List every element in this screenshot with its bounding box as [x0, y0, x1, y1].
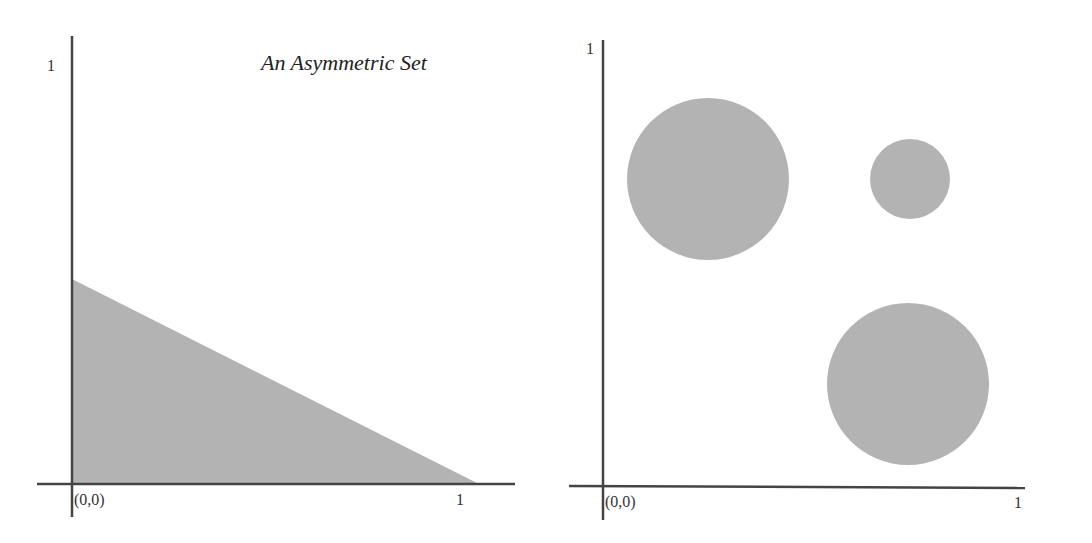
figure-circles-set: 1 (0,0) 1 — [546, 0, 1092, 543]
figure-title: An Asymmetric Set — [261, 52, 427, 74]
y-max-label: 1 — [47, 58, 55, 74]
x-max-label: 1 — [1014, 495, 1022, 511]
x-max-label: 1 — [456, 492, 464, 508]
y-max-label: 1 — [586, 41, 594, 57]
triangle-plot — [0, 0, 546, 543]
figure-asymmetric-set: An Asymmetric Set 1 (0,0) 1 — [0, 0, 546, 543]
origin-label: (0,0) — [74, 492, 105, 508]
large-circle-top — [627, 98, 789, 260]
circles-plot — [546, 0, 1092, 543]
x-axis — [569, 486, 1025, 488]
origin-label: (0,0) — [605, 494, 636, 510]
small-circle — [870, 139, 950, 219]
triangle-region — [72, 279, 477, 483]
large-circle-bottom — [827, 303, 989, 465]
